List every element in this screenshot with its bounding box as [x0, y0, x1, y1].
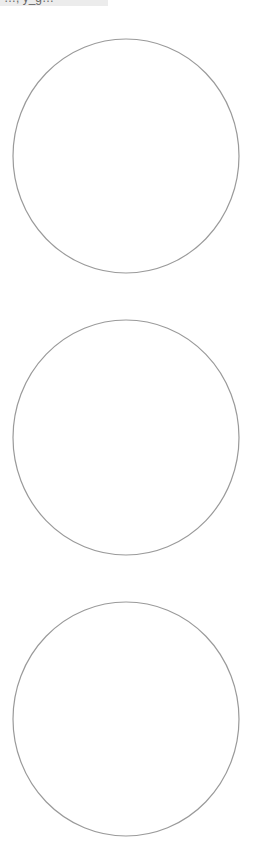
circle-3	[13, 602, 239, 836]
circle-2	[13, 320, 239, 555]
page: …, y_g…	[0, 0, 258, 843]
circles-canvas	[0, 0, 258, 843]
circle-1	[13, 39, 239, 273]
